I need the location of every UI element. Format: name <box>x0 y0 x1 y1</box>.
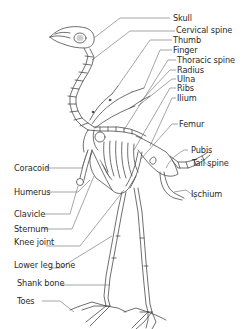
wing-bones <box>95 106 135 128</box>
pelvis <box>136 136 178 176</box>
left-leg <box>104 192 122 306</box>
label-tail-spine: Tail spine <box>192 159 229 167</box>
label-toes: Toes <box>17 297 35 305</box>
label-finger: Finger <box>173 46 198 54</box>
skull-bone <box>50 27 94 48</box>
label-thoracic-spine: Thoracic spine <box>177 56 235 64</box>
label-ulna: Ulna <box>177 75 195 83</box>
bird-skeleton-diagram: Skull Cervical spine Thumb Finger Thorac… <box>0 0 245 329</box>
label-coracoid: Coracoid <box>14 164 49 172</box>
label-cervical-spine: Cervical spine <box>176 26 232 34</box>
label-ischium: Ischium <box>191 190 222 198</box>
label-shank-bone: Shank bone <box>17 279 64 287</box>
label-sternum: Sternum <box>14 225 48 233</box>
label-ilium: Ilium <box>177 94 197 102</box>
toes <box>70 302 126 322</box>
label-ribs: Ribs <box>177 84 194 92</box>
label-knee-joint: Knee joint <box>14 238 54 246</box>
label-femur: Femur <box>179 120 204 128</box>
sternum-bone <box>92 150 136 193</box>
label-humerus: Humerus <box>14 188 50 196</box>
label-skull: Skull <box>173 14 192 22</box>
label-clavicle: Clavicle <box>14 210 45 218</box>
label-thumb: Thumb <box>173 36 201 44</box>
label-radius: Radius <box>177 66 204 74</box>
label-pubis: Pubis <box>191 146 212 154</box>
label-lower-leg-bone: Lower leg bone <box>14 261 75 269</box>
